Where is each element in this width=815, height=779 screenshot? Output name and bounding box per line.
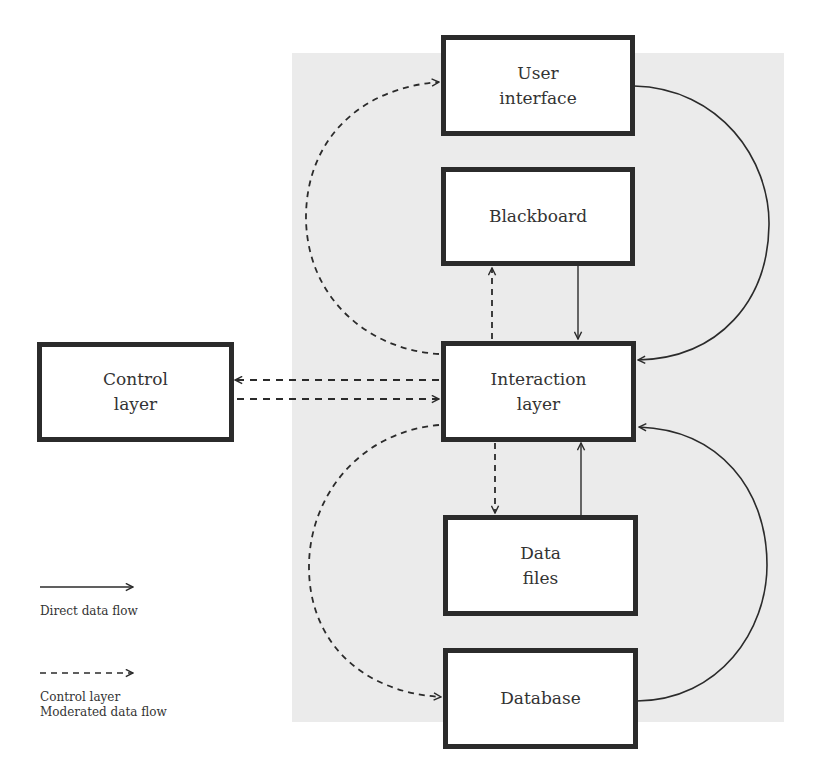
node-database-label: Database bbox=[500, 686, 581, 711]
node-database: Database bbox=[443, 648, 638, 749]
node-control-layer: Control layer bbox=[37, 342, 234, 442]
node-user-interface-label: User interface bbox=[499, 61, 576, 111]
legend-moderated: Control layer Moderated data flow bbox=[40, 690, 167, 720]
node-interaction-layer-label: Interaction layer bbox=[491, 367, 587, 417]
node-blackboard-label: Blackboard bbox=[489, 204, 587, 229]
legend-moderated-label: Control layer Moderated data flow bbox=[40, 690, 167, 719]
edge-user-interface-to-interaction bbox=[634, 86, 769, 360]
legend-direct: Direct data flow bbox=[40, 604, 138, 619]
node-interaction-layer: Interaction layer bbox=[441, 341, 636, 442]
node-data-files: Data files bbox=[443, 515, 638, 616]
edge-database-to-interaction bbox=[637, 427, 767, 701]
edge-interaction-to-user-interface bbox=[306, 82, 439, 354]
node-blackboard: Blackboard bbox=[441, 167, 635, 266]
legend-direct-label: Direct data flow bbox=[40, 604, 138, 618]
node-user-interface: User interface bbox=[441, 35, 635, 136]
node-data-files-label: Data files bbox=[520, 541, 561, 591]
edge-interaction-to-database bbox=[309, 425, 441, 697]
node-control-layer-label: Control layer bbox=[103, 367, 168, 417]
